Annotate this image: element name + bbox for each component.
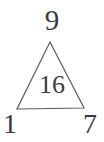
bottom-right-number-label: 7 [83, 110, 97, 138]
apex-number-label: 9 [0, 6, 104, 35]
inner-number-label: 16 [0, 72, 104, 98]
triangle-figure: 9 16 1 7 [0, 0, 104, 142]
bottom-left-number-label: 1 [3, 110, 17, 138]
